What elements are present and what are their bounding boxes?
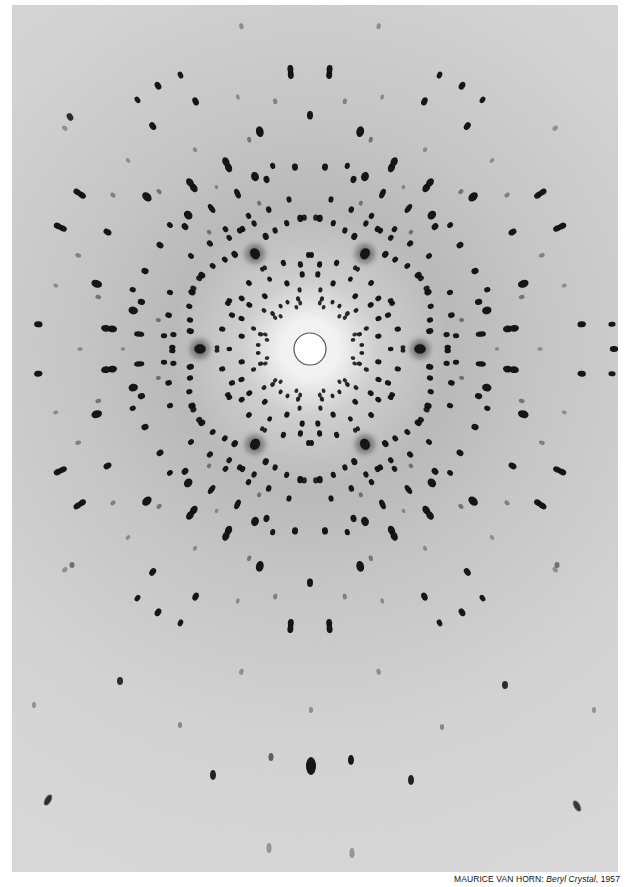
caption-year: , 1957 (596, 874, 620, 884)
beam-stop-disc (294, 333, 326, 365)
laue-diffraction-pattern (12, 5, 618, 872)
caption-artist: MAURICE VAN HORN: (454, 874, 544, 884)
caption-title: Beryl Crystal (546, 874, 595, 884)
diffraction-photograph (12, 5, 618, 872)
photo-caption: MAURICE VAN HORN: Beryl Crystal, 1957 (454, 872, 620, 886)
